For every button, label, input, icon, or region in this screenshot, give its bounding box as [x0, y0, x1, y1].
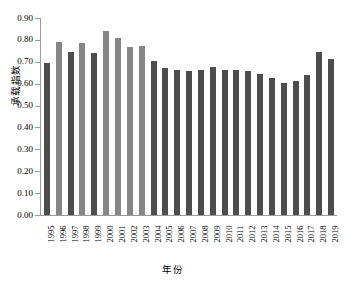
- y-tick-label: 0.80: [0, 35, 33, 44]
- x-label-slot: 2012: [242, 218, 254, 258]
- x-label-slot: 2017: [302, 218, 314, 258]
- y-tick-label: 0.90: [0, 14, 33, 23]
- x-label-slot: 2002: [124, 218, 136, 258]
- bar: [115, 38, 121, 215]
- y-tick-label: 0.60: [0, 79, 33, 88]
- bar: [316, 52, 322, 215]
- x-label-slot: 2007: [183, 218, 195, 258]
- y-tick-mark: [35, 171, 40, 172]
- x-axis-line: [40, 215, 337, 216]
- bar-slot: [112, 18, 124, 215]
- bar-slot: [148, 18, 160, 215]
- x-axis-title: 年份: [0, 262, 345, 276]
- bar-slot: [302, 18, 314, 215]
- bar-slot: [219, 18, 231, 215]
- bar-slot: [195, 18, 207, 215]
- bar: [186, 71, 192, 215]
- bar: [222, 70, 228, 215]
- bar-slot: [159, 18, 171, 215]
- x-label-slot: 2006: [171, 218, 183, 258]
- y-tick-mark: [35, 215, 40, 216]
- bar-slot: [53, 18, 65, 215]
- bar-slot: [41, 18, 53, 215]
- y-tick-label: 0.40: [0, 123, 33, 132]
- x-label-slot: 2003: [136, 218, 148, 258]
- bar: [44, 63, 50, 215]
- y-tick-label: 0.10: [0, 189, 33, 198]
- x-label-slot: 2005: [159, 218, 171, 258]
- bar-slot: [290, 18, 302, 215]
- x-label-slot: 2011: [231, 218, 243, 258]
- y-tick-label: 0.70: [0, 57, 33, 66]
- x-label-slot: 2008: [195, 218, 207, 258]
- x-label-slot: 1996: [53, 218, 65, 258]
- x-tick-label: 2019: [331, 226, 340, 243]
- bar: [68, 52, 74, 215]
- bar: [174, 70, 180, 215]
- y-tick-mark: [35, 62, 40, 63]
- bar: [103, 31, 109, 215]
- bar: [79, 43, 85, 215]
- bar-chart: 承载指数 0.900.800.700.600.500.400.300.200.1…: [0, 0, 345, 282]
- bar-series: [41, 18, 337, 215]
- y-tick-mark: [35, 84, 40, 85]
- x-label-slot: 1998: [77, 218, 89, 258]
- y-tick-label: 0.00: [0, 211, 33, 220]
- bar-slot: [77, 18, 89, 215]
- bar-slot: [231, 18, 243, 215]
- bar: [91, 53, 97, 215]
- y-tick-mark: [35, 18, 40, 19]
- bar: [151, 61, 157, 215]
- bar: [56, 42, 62, 215]
- bar: [269, 78, 275, 215]
- bar: [198, 70, 204, 215]
- x-label-slot: 2014: [266, 218, 278, 258]
- y-tick-label: 0.30: [0, 145, 33, 154]
- bar-slot: [183, 18, 195, 215]
- bar-slot: [100, 18, 112, 215]
- bar: [139, 46, 145, 215]
- x-label-slot: 2013: [254, 218, 266, 258]
- bar-slot: [124, 18, 136, 215]
- bar-slot: [88, 18, 100, 215]
- y-tick-mark: [35, 127, 40, 128]
- bar: [257, 74, 263, 215]
- bar-slot: [65, 18, 77, 215]
- bar: [233, 70, 239, 215]
- bar: [162, 68, 168, 215]
- x-label-slot: 2010: [219, 218, 231, 258]
- bar: [281, 83, 287, 215]
- y-tick-mark: [35, 106, 40, 107]
- bar-slot: [242, 18, 254, 215]
- y-tick-mark: [35, 193, 40, 194]
- bar-slot: [313, 18, 325, 215]
- bar-slot: [254, 18, 266, 215]
- x-label-slot: 1995: [41, 218, 53, 258]
- x-label-slot: 2016: [290, 218, 302, 258]
- x-axis-tick-labels: 1995199619971998199920002001200220032004…: [41, 218, 337, 258]
- bar-slot: [171, 18, 183, 215]
- x-label-slot: 2001: [112, 218, 124, 258]
- x-label-slot: 2000: [100, 218, 112, 258]
- bar: [304, 75, 310, 215]
- y-tick-label: 0.20: [0, 167, 33, 176]
- bar: [210, 67, 216, 215]
- bar: [127, 47, 133, 215]
- bar-slot: [325, 18, 337, 215]
- x-label-slot: 2018: [313, 218, 325, 258]
- y-tick-mark: [35, 40, 40, 41]
- x-label-slot: 1997: [65, 218, 77, 258]
- bar-slot: [266, 18, 278, 215]
- bar-slot: [207, 18, 219, 215]
- bar: [245, 71, 251, 215]
- x-label-slot: 2009: [207, 218, 219, 258]
- bar: [328, 59, 334, 216]
- y-tick-label: 0.50: [0, 101, 33, 110]
- x-label-slot: 2019: [325, 218, 337, 258]
- x-label-slot: 2004: [148, 218, 160, 258]
- x-label-slot: 1999: [88, 218, 100, 258]
- x-label-slot: 2015: [278, 218, 290, 258]
- y-tick-mark: [35, 149, 40, 150]
- bar-slot: [278, 18, 290, 215]
- bar: [293, 81, 299, 215]
